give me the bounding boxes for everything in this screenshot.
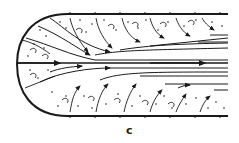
panel-label: c: [126, 124, 133, 137]
flow-diagram: c: [0, 0, 239, 143]
channel-wall: [17, 14, 228, 116]
channel-flow-svg: [0, 0, 239, 143]
